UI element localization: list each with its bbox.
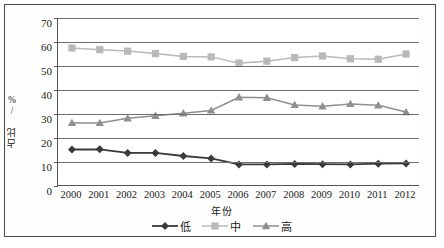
y-tick-mark	[54, 42, 58, 43]
data-point-marker	[207, 106, 215, 113]
data-point-marker	[124, 149, 132, 157]
x-axis-title: 年份	[0, 203, 444, 218]
y-axis-tick-labels: 706050403020100	[26, 11, 52, 193]
y-tick-mark	[54, 162, 58, 163]
y-tick-label: 50	[41, 66, 52, 77]
gridline	[58, 138, 419, 139]
data-point-marker	[347, 55, 354, 62]
gridline	[58, 90, 419, 91]
data-point-marker	[152, 50, 159, 57]
y-tick-label: 0	[47, 186, 53, 197]
data-point-marker	[124, 48, 131, 55]
data-point-marker	[68, 44, 75, 51]
data-point-marker	[96, 145, 104, 153]
legend-swatch-diamond-icon	[152, 220, 178, 232]
y-tick-mark	[54, 18, 58, 19]
y-tick-mark	[54, 186, 58, 187]
data-point-marker	[319, 52, 326, 59]
legend-item: 中	[202, 218, 242, 234]
legend-label: 高	[281, 218, 293, 234]
gridline	[58, 66, 419, 67]
data-point-marker	[68, 146, 76, 154]
y-axis-title: 占比 /%	[6, 78, 20, 148]
data-point-marker	[263, 58, 270, 65]
legend-item: 高	[253, 218, 293, 234]
data-point-marker	[161, 222, 169, 230]
legend-label: 低	[180, 218, 192, 234]
series-line	[72, 97, 406, 123]
gridline	[58, 42, 419, 43]
y-tick-mark	[54, 66, 58, 67]
y-tick-label: 60	[41, 42, 52, 53]
y-tick-mark	[54, 90, 58, 91]
y-tick-label: 30	[41, 114, 52, 125]
data-point-marker	[291, 54, 298, 61]
gridline	[58, 162, 419, 163]
legend-swatch-triangle-icon	[253, 220, 279, 232]
y-tick-label: 70	[41, 18, 52, 29]
legend-swatch-square-icon	[202, 220, 228, 232]
legend-item: 低	[152, 218, 192, 234]
y-tick-label: 40	[41, 90, 52, 101]
y-tick-mark	[54, 114, 58, 115]
data-point-marker	[96, 46, 103, 53]
data-point-marker	[179, 152, 187, 160]
y-tick-label: 10	[41, 162, 52, 173]
chart-figure: 占比 /% 706050403020100 200020012002200320…	[0, 0, 444, 248]
y-tick-label: 20	[41, 138, 52, 149]
data-point-marker	[180, 53, 187, 60]
series-svg	[58, 18, 420, 186]
data-point-marker	[212, 222, 219, 229]
y-tick-mark	[54, 138, 58, 139]
x-tick-label: 2012	[388, 189, 422, 201]
data-point-marker	[374, 160, 382, 168]
gridline	[58, 18, 419, 19]
data-point-marker	[375, 56, 382, 63]
plot-area	[57, 18, 419, 186]
chart-legend: 低中高	[0, 218, 444, 234]
gridline	[58, 114, 419, 115]
data-point-marker	[208, 53, 215, 60]
data-point-marker	[402, 50, 409, 57]
data-point-marker	[402, 159, 410, 167]
data-point-marker	[151, 149, 159, 157]
legend-label: 中	[230, 218, 242, 234]
